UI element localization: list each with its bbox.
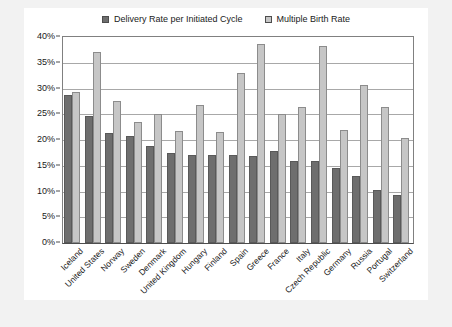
bar	[175, 131, 183, 243]
y-tick-mark	[56, 36, 60, 37]
y-tick-label: 0%	[42, 237, 55, 247]
x-axis: IcelandUnited StatesNorwaySwedenDenmarkU…	[62, 244, 414, 300]
legend-swatch-icon-delivery-rate	[102, 16, 109, 23]
y-tick-mark	[56, 61, 60, 62]
bar	[332, 168, 340, 243]
bar-group	[207, 37, 228, 243]
bar	[381, 107, 389, 243]
bar-group	[166, 37, 187, 243]
bar	[311, 161, 319, 243]
bar	[393, 195, 401, 243]
bar-group	[269, 37, 290, 243]
y-tick-mark	[56, 242, 60, 243]
bar-group	[331, 37, 352, 243]
x-tick-label: France	[265, 246, 291, 272]
legend-label-delivery-rate: Delivery Rate per Initiated Cycle	[114, 14, 243, 24]
legend-entry-delivery-rate: Delivery Rate per Initiated Cycle	[102, 14, 243, 24]
bar	[237, 73, 245, 243]
bar	[229, 155, 237, 243]
bar-group	[187, 37, 208, 243]
y-tick-label: 5%	[42, 211, 55, 221]
bar	[278, 114, 286, 243]
bar	[298, 107, 306, 243]
bar	[401, 138, 409, 243]
bar	[290, 161, 298, 243]
bar-group	[228, 37, 249, 243]
plot-area	[62, 36, 414, 244]
bar	[188, 155, 196, 243]
bar	[167, 153, 175, 243]
y-tick-label: 25%	[37, 108, 55, 118]
bar	[216, 132, 224, 243]
bar	[270, 151, 278, 243]
bar	[105, 133, 113, 243]
y-tick-mark	[56, 216, 60, 217]
bar	[134, 122, 142, 243]
bar	[72, 92, 80, 243]
chart-legend: Delivery Rate per Initiated Cycle Multip…	[24, 14, 428, 24]
y-tick-mark	[56, 87, 60, 88]
chart-card: Delivery Rate per Initiated Cycle Multip…	[24, 8, 428, 300]
y-tick-label: 15%	[37, 160, 55, 170]
bar-group	[351, 37, 372, 243]
legend-label-multiple-birth-rate: Multiple Birth Rate	[277, 14, 351, 24]
bar-group	[125, 37, 146, 243]
bar	[208, 155, 216, 243]
bar	[352, 176, 360, 243]
legend-entry-multiple-birth-rate: Multiple Birth Rate	[265, 14, 351, 24]
bars-layer	[63, 37, 413, 243]
bar-group	[104, 37, 125, 243]
bar	[85, 116, 93, 243]
bar	[257, 44, 265, 243]
bar-group	[289, 37, 310, 243]
bar	[340, 130, 348, 243]
bar	[126, 136, 134, 243]
y-tick-mark	[56, 139, 60, 140]
bar-group	[84, 37, 105, 243]
bar-group	[145, 37, 166, 243]
y-tick-mark	[56, 113, 60, 114]
bar-group	[248, 37, 269, 243]
bar-group	[63, 37, 84, 243]
bar	[319, 46, 327, 243]
bar-group	[392, 37, 413, 243]
bar	[64, 95, 72, 243]
bar	[113, 101, 121, 243]
bar	[249, 156, 257, 243]
y-tick-label: 40%	[37, 31, 55, 41]
y-tick-label: 10%	[37, 186, 55, 196]
bar-group	[372, 37, 393, 243]
bar	[360, 85, 368, 243]
y-tick-label: 30%	[37, 83, 55, 93]
legend-swatch-icon-multiple-birth-rate	[265, 16, 272, 23]
y-tick-label: 35%	[37, 57, 55, 67]
bar	[196, 105, 204, 243]
bar	[146, 146, 154, 243]
bar	[154, 114, 162, 243]
y-tick-mark	[56, 190, 60, 191]
y-tick-label: 20%	[37, 134, 55, 144]
y-tick-mark	[56, 164, 60, 165]
bar-group	[310, 37, 331, 243]
bar	[373, 190, 381, 243]
bar	[93, 52, 101, 243]
y-axis: 0%5%10%15%20%25%30%35%40%	[24, 36, 60, 244]
